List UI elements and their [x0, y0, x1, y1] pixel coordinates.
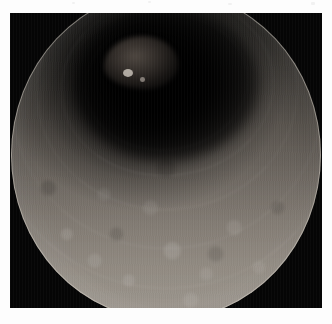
matte-artifact [72, 2, 75, 4]
matte-artifact [311, 2, 315, 5]
matte-artifact [228, 3, 232, 5]
matte-artifact [148, 1, 151, 3]
image-viewer-root [0, 0, 332, 324]
aperture-rim [11, 13, 321, 308]
endoscope-image-frame[interactable] [10, 13, 322, 308]
circular-field-of-view [11, 13, 321, 308]
